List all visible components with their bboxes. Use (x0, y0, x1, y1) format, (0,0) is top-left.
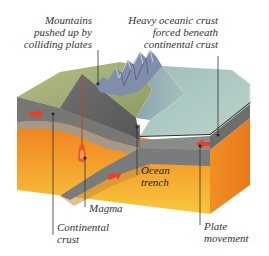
leader-ocean-trench-dot (136, 126, 138, 128)
leader-oceanic-crust-dot (217, 134, 219, 136)
label-oceanic-crust: Heavy oceanic crust forced beneath conti… (128, 14, 218, 50)
label-plate-movement: Plate movement (204, 220, 249, 244)
label-ocean-trench: Ocean trench (141, 164, 170, 188)
label-magma: Magma (89, 202, 123, 214)
label-mountains: Mountains pushed up by colliding plates (24, 14, 92, 50)
leader-plate-movement-dot (199, 145, 201, 147)
leader-mountains-dot (97, 83, 99, 85)
label-continental-crust: Continental crust (57, 221, 109, 245)
leader-continental-crust-dot (52, 113, 54, 115)
leader-magma-dot (84, 157, 86, 159)
